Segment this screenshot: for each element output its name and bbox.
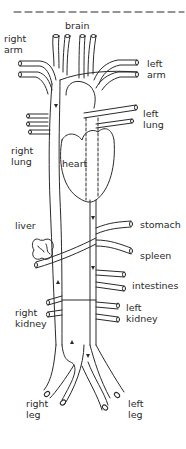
label-left-arm: left arm — [147, 58, 166, 80]
label-right-arm: right arm — [4, 33, 26, 55]
label-intestines: intestines — [132, 280, 178, 291]
abdominal-vessels — [35, 221, 133, 291]
vena-cava — [49, 84, 56, 345]
lung-vessels — [27, 105, 138, 134]
label-liver: liver — [15, 220, 36, 231]
label-right-lung: right lung — [11, 145, 33, 167]
leg-vessels — [43, 345, 124, 411]
brain-vessels — [53, 35, 96, 79]
label-heart: heart — [62, 158, 87, 169]
label-left-lung: left lung — [143, 108, 164, 130]
label-brain: brain — [65, 20, 89, 31]
label-stomach: stomach — [140, 219, 181, 230]
flow-arrows — [54, 104, 95, 358]
aorta — [66, 81, 95, 108]
label-right-kidney: right kidney — [15, 307, 47, 329]
liver — [32, 239, 53, 259]
label-spleen: spleen — [140, 250, 171, 261]
label-right-leg: right leg — [26, 398, 48, 420]
arm-vessels — [19, 60, 139, 94]
label-left-leg: left leg — [128, 398, 143, 420]
label-left-kidney: left kidney — [126, 302, 158, 324]
kidney-vessels — [47, 296, 120, 322]
